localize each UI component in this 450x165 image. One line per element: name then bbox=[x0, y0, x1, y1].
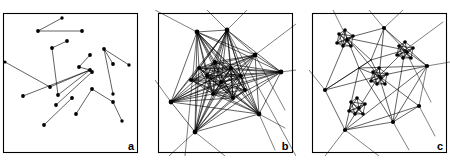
cluster-bottom-left bbox=[347, 96, 367, 116]
panel-b-edges bbox=[155, 10, 296, 156]
panel-b: b bbox=[155, 10, 296, 156]
panel-a-border bbox=[4, 13, 138, 152]
figure-three-panel-networks: a bbox=[0, 0, 450, 165]
panel-a: a bbox=[0, 10, 141, 156]
cluster-top-left bbox=[335, 28, 355, 48]
panel-c: c bbox=[309, 10, 450, 156]
panel-b-label: b bbox=[282, 141, 289, 152]
panel-c-label: c bbox=[437, 141, 443, 152]
panel-a-label: a bbox=[128, 141, 134, 152]
panel-b-graph bbox=[155, 10, 296, 156]
panel-a-graph bbox=[0, 10, 141, 156]
panel-c-graph bbox=[309, 10, 450, 156]
panel-a-edges bbox=[5, 18, 129, 125]
